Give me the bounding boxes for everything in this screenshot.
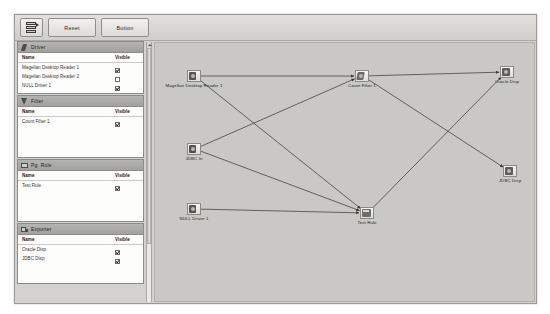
row-label: Test Rule bbox=[18, 183, 113, 188]
reset-button[interactable]: Reset bbox=[48, 18, 96, 37]
graph-node-label: JDBC Disp bbox=[499, 178, 521, 183]
panel-filter-header[interactable]: Filter bbox=[17, 95, 144, 106]
table-row[interactable]: JDBC Disp bbox=[18, 254, 143, 263]
toolbar: Reset Button bbox=[15, 15, 536, 41]
table-row[interactable]: Test Rule bbox=[18, 181, 143, 190]
row-label: NULL Driver 1 bbox=[18, 83, 113, 88]
panel-exporter-title: Exporter bbox=[31, 226, 52, 232]
visible-checkbox[interactable] bbox=[115, 186, 120, 191]
graph-node-label: Count Filter 1 bbox=[348, 83, 376, 88]
graph-node-label: JDBC In bbox=[185, 156, 202, 161]
panel-driver-title: Driver bbox=[31, 44, 46, 50]
column-header-name: Name bbox=[18, 237, 114, 242]
graph-node-label: Oracle Disp bbox=[495, 79, 519, 84]
driver-node-icon bbox=[187, 70, 201, 82]
panel-driver: Driver Name Visible Magellan Desktop Rea… bbox=[17, 41, 144, 94]
graph-edge-jdbcin-to-cfilter[interactable] bbox=[200, 79, 354, 147]
driver-icon bbox=[21, 44, 28, 51]
panel-rule-body: Name Visible Test Rule bbox=[17, 170, 144, 222]
row-label: Magellan Desktop Reader 2 bbox=[18, 74, 113, 79]
graph-node-jdbcin[interactable]: JDBC In bbox=[187, 143, 201, 155]
layers-icon-button[interactable] bbox=[20, 18, 43, 37]
panel-exporter: Exporter Name Visible Oracle Disp JDBC D… bbox=[17, 223, 144, 284]
graph-node-jdbcdisp[interactable]: JDBC Disp bbox=[503, 165, 517, 177]
graph-edge-jdbcin-to-testrule[interactable] bbox=[201, 151, 360, 210]
graph-node-oracle[interactable]: Oracle Disp bbox=[500, 66, 514, 78]
panel-driver-body: Name Visible Magellan Desktop Reader 1 M… bbox=[17, 52, 144, 94]
graph-node-nulldrv[interactable]: NULL Driver 1 bbox=[187, 203, 201, 215]
graph-edge-reader1-to-testrule[interactable] bbox=[199, 80, 360, 209]
button-button[interactable]: Button bbox=[101, 18, 149, 37]
visible-checkbox[interactable] bbox=[115, 77, 120, 82]
visible-checkbox[interactable] bbox=[115, 259, 120, 264]
column-header-name: Name bbox=[18, 173, 114, 178]
graph-node-cfilter[interactable]: Count Filter 1 bbox=[355, 70, 369, 82]
graph-edge-cfilter-to-jdbcdisp[interactable] bbox=[368, 79, 503, 167]
graph-canvas[interactable]: Magellan Desktop Reader 1JDBC InNULL Dri… bbox=[154, 42, 535, 302]
row-visible-cell[interactable] bbox=[113, 113, 143, 131]
exporter-node-icon bbox=[503, 165, 517, 177]
graph-node-reader1[interactable]: Magellan Desktop Reader 1 bbox=[187, 70, 201, 82]
graph-node-label: NULL Driver 1 bbox=[180, 216, 209, 221]
filter-icon bbox=[21, 98, 28, 105]
graph-node-testrule[interactable]: Test Rule bbox=[360, 207, 374, 219]
scrollbar-thumb[interactable] bbox=[147, 48, 151, 244]
panel-rule-title: Pg. Rule bbox=[31, 162, 52, 168]
row-label: Count Filter 1 bbox=[18, 119, 113, 124]
driver-node-icon bbox=[187, 143, 201, 155]
rule-node-icon bbox=[360, 207, 374, 219]
graph-edge-cfilter-to-oracle[interactable] bbox=[369, 72, 499, 76]
panel-filter: Filter Name Visible Count Filter 1 bbox=[17, 95, 144, 158]
sidebar: Driver Name Visible Magellan Desktop Rea… bbox=[15, 41, 146, 303]
panel-rule: Pg. Rule Name Visible Test Rule bbox=[17, 159, 144, 222]
visible-checkbox[interactable] bbox=[115, 86, 120, 91]
panel-filter-title: Filter bbox=[31, 98, 43, 104]
row-label: Magellan Desktop Reader 1 bbox=[18, 65, 113, 70]
exporter-node-icon bbox=[500, 66, 514, 78]
exporter-icon bbox=[21, 226, 28, 233]
rule-icon bbox=[21, 162, 28, 169]
column-header-name: Name bbox=[18, 109, 114, 114]
row-label: JDBC Disp bbox=[18, 256, 113, 261]
graph-node-label: Magellan Desktop Reader 1 bbox=[166, 83, 223, 88]
table-row[interactable]: Count Filter 1 bbox=[18, 117, 143, 126]
row-label: Oracle Disp bbox=[18, 247, 113, 252]
graph-node-label: Test Rule bbox=[357, 220, 376, 225]
visible-checkbox[interactable] bbox=[115, 68, 120, 73]
panel-driver-header[interactable]: Driver bbox=[17, 41, 144, 52]
table-row[interactable]: NULL Driver 1 bbox=[18, 81, 143, 90]
graph-edge-testrule-to-oracle[interactable] bbox=[372, 77, 501, 209]
graph-edges bbox=[155, 43, 534, 301]
panel-rule-header[interactable]: Pg. Rule bbox=[17, 159, 144, 170]
panel-filter-body: Name Visible Count Filter 1 bbox=[17, 106, 144, 158]
filter-node-icon bbox=[355, 70, 369, 82]
graph-edge-nulldrv-to-testrule[interactable] bbox=[201, 209, 359, 213]
row-visible-cell[interactable] bbox=[113, 177, 143, 195]
sidebar-vertical-scrollbar[interactable] bbox=[146, 42, 152, 302]
visible-checkbox[interactable] bbox=[115, 122, 120, 127]
application-window: Reset Button Driver Name Visible Magella… bbox=[14, 14, 537, 304]
column-header-name: Name bbox=[18, 55, 114, 60]
layers-icon bbox=[26, 22, 38, 33]
panel-exporter-body: Name Visible Oracle Disp JDBC Disp bbox=[17, 234, 144, 284]
panel-exporter-header[interactable]: Exporter bbox=[17, 223, 144, 234]
driver-node-icon bbox=[187, 203, 201, 215]
visible-checkbox[interactable] bbox=[115, 250, 120, 255]
